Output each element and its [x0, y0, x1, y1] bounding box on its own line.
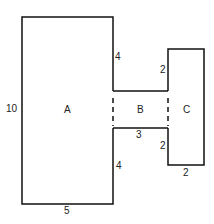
- dim-b-width: 3: [136, 130, 142, 140]
- shape-diagram: [0, 0, 214, 224]
- dim-c-left-upper: 2: [160, 65, 166, 75]
- dim-c-left-lower: 2: [160, 141, 166, 151]
- dim-a-height: 10: [6, 104, 17, 114]
- region-c-label: C: [183, 105, 190, 115]
- dim-a-right-lower: 4: [116, 161, 122, 171]
- region-a-label: A: [64, 105, 71, 115]
- dim-c-width: 2: [183, 168, 189, 178]
- dim-a-width: 5: [64, 206, 70, 216]
- dim-a-right-upper: 4: [115, 52, 121, 62]
- region-b-label: B: [137, 105, 144, 115]
